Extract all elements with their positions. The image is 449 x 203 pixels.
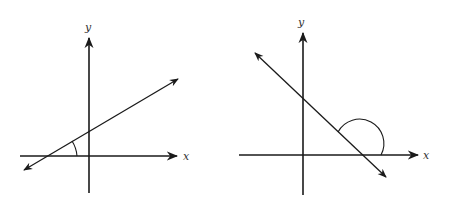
right-x-label: x [423, 149, 430, 162]
left-x-label: x [183, 150, 190, 163]
left-angle-arc-acute [72, 141, 77, 156]
left-figure: x y [20, 21, 190, 193]
right-y-label: y [297, 16, 305, 29]
right-angle-arc-obtuse [338, 119, 384, 155]
right-sloped-line [255, 53, 386, 177]
left-y-label: y [84, 21, 92, 34]
diagram-canvas: x y x y [0, 0, 449, 203]
right-figure: x y [239, 16, 430, 195]
